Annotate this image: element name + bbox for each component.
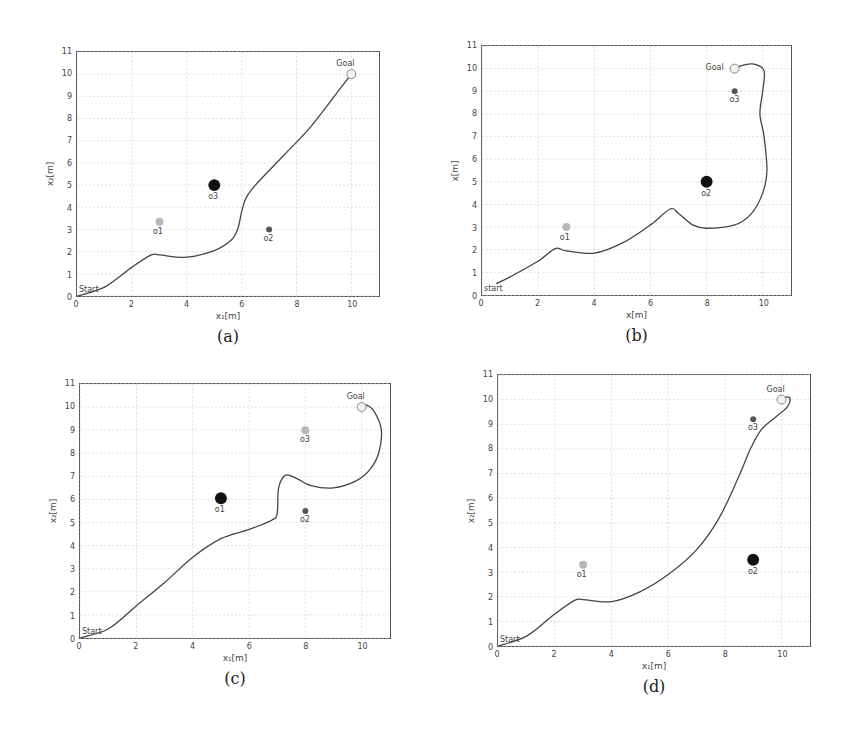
subfigure-caption: (c) xyxy=(224,669,245,688)
plot-svg xyxy=(498,375,810,646)
obstacle-label-o3: o3 xyxy=(748,423,758,432)
y-tick-label: 10 xyxy=(62,69,76,78)
goal-marker xyxy=(357,403,366,412)
x-tick-label: 8 xyxy=(705,299,710,308)
y-tick-label: 8 xyxy=(70,448,79,457)
y-tick-label: 7 xyxy=(67,136,76,145)
y-tick-label: 9 xyxy=(488,419,497,428)
plot-svg xyxy=(482,46,791,295)
obstacle-marker-o2 xyxy=(701,176,713,188)
y-tick-label: 0 xyxy=(488,643,497,652)
subfigure-caption: (b) xyxy=(625,326,648,345)
obstacle-label-o1: o1 xyxy=(560,233,570,242)
x-tick-label: 10 xyxy=(759,299,769,308)
y-tick-label: 6 xyxy=(488,494,497,503)
y-tick-label: 6 xyxy=(472,155,481,164)
x-tick-label: 2 xyxy=(535,299,540,308)
y-tick-label: 7 xyxy=(472,132,481,141)
trajectory-line xyxy=(80,405,381,638)
obstacle-label-o3: o3 xyxy=(300,435,310,444)
start-label: Start xyxy=(79,285,99,294)
y-tick-label: 4 xyxy=(70,541,79,550)
x-tick-label: 6 xyxy=(247,642,252,651)
y-tick-label: 11 xyxy=(65,379,79,388)
y-axis-label: x₂[m] xyxy=(45,162,55,187)
plot-svg xyxy=(80,384,390,638)
y-tick-label: 0 xyxy=(67,293,76,302)
obstacle-label-o2: o2 xyxy=(300,515,310,524)
y-axis-label: x₂[m] xyxy=(48,499,58,524)
obstacle-marker-o1 xyxy=(156,218,164,226)
y-tick-label: 2 xyxy=(488,593,497,602)
y-tick-label: 9 xyxy=(67,91,76,100)
start-label: Start xyxy=(82,627,102,636)
start-label: Start xyxy=(500,635,520,644)
y-axis-label: x[m] xyxy=(450,160,460,181)
trajectory-line xyxy=(498,397,790,646)
y-tick-label: 4 xyxy=(472,200,481,209)
x-tick-label: 2 xyxy=(552,650,557,659)
y-tick-label: 5 xyxy=(67,181,76,190)
y-tick-label: 2 xyxy=(67,248,76,257)
subfigure-caption: (a) xyxy=(217,327,239,346)
goal-marker xyxy=(730,64,739,73)
obstacle-marker-o2 xyxy=(266,226,272,232)
y-tick-label: 3 xyxy=(472,223,481,232)
y-tick-label: 0 xyxy=(70,635,79,644)
y-tick-label: 1 xyxy=(472,269,481,278)
trajectory-line xyxy=(496,64,767,284)
obstacle-marker-o3 xyxy=(732,88,738,94)
x-tick-label: 2 xyxy=(129,300,134,309)
plot-area-c xyxy=(79,383,391,639)
y-tick-label: 1 xyxy=(67,270,76,279)
obstacle-marker-o2 xyxy=(747,554,759,566)
x-tick-label: 4 xyxy=(184,300,189,309)
x-tick-label: 10 xyxy=(347,300,357,309)
obstacle-marker-o1 xyxy=(562,223,570,231)
plot-area-b xyxy=(481,45,792,296)
x-tick-label: 8 xyxy=(295,300,300,309)
x-tick-label: 6 xyxy=(666,650,671,659)
y-tick-label: 3 xyxy=(488,568,497,577)
x-tick-label: 6 xyxy=(648,299,653,308)
plot-area-d xyxy=(497,374,811,647)
obstacle-label-o2: o2 xyxy=(748,567,758,576)
obstacle-label-o1: o1 xyxy=(153,227,163,236)
x-tick-label: 2 xyxy=(133,642,138,651)
y-tick-label: 2 xyxy=(472,246,481,255)
x-tick-label: 10 xyxy=(358,642,368,651)
x-tick-label: 10 xyxy=(777,650,787,659)
y-tick-label: 10 xyxy=(467,63,481,72)
start-label: start xyxy=(484,284,503,293)
obstacle-marker-o2 xyxy=(302,508,308,514)
y-tick-label: 2 xyxy=(70,588,79,597)
obstacle-label-o2: o2 xyxy=(263,234,273,243)
subfigure-caption: (d) xyxy=(643,677,666,696)
y-tick-label: 5 xyxy=(472,177,481,186)
obstacle-marker-o1 xyxy=(579,561,587,569)
obstacle-label-o3: o3 xyxy=(208,192,218,201)
y-tick-label: 11 xyxy=(483,370,497,379)
x-tick-label: 4 xyxy=(609,650,614,659)
x-axis-label: x₁[m] xyxy=(216,311,241,321)
x-tick-label: 6 xyxy=(239,300,244,309)
x-tick-label: 8 xyxy=(723,650,728,659)
y-axis-label: x₂[m] xyxy=(466,498,476,523)
y-tick-label: 8 xyxy=(488,444,497,453)
y-tick-label: 11 xyxy=(467,41,481,50)
y-tick-label: 7 xyxy=(70,472,79,481)
goal-label: Goal xyxy=(766,385,784,394)
y-tick-label: 11 xyxy=(62,47,76,56)
obstacle-label-o3: o3 xyxy=(729,95,739,104)
obstacle-label-o1: o1 xyxy=(215,505,225,514)
y-tick-label: 1 xyxy=(70,611,79,620)
y-tick-label: 5 xyxy=(70,518,79,527)
y-tick-label: 6 xyxy=(67,158,76,167)
y-tick-label: 9 xyxy=(472,86,481,95)
goal-label: Goal xyxy=(347,392,365,401)
obstacle-marker-o3 xyxy=(208,179,220,191)
obstacle-label-o2: o2 xyxy=(701,189,711,198)
y-tick-label: 3 xyxy=(67,225,76,234)
y-tick-label: 8 xyxy=(67,114,76,123)
y-tick-label: 3 xyxy=(70,565,79,574)
